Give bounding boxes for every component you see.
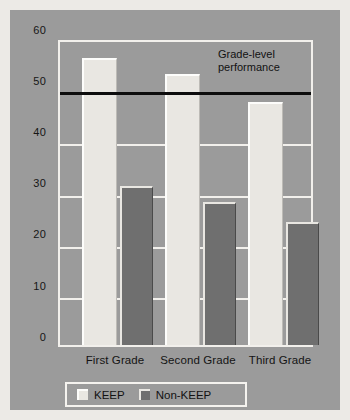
- grade-level-annotation-label: Grade-level performance: [218, 48, 280, 74]
- legend-item-nonkeep[interactable]: Non-KEEP: [139, 389, 212, 401]
- bar-nonkeep-first-grade[interactable]: [120, 186, 153, 345]
- chart-panel: Mean Reading Achievement 60 50 40 30 20 …: [10, 10, 340, 410]
- y-tick-label-30: 30: [2, 177, 46, 189]
- y-tick-label-50: 50: [2, 75, 46, 87]
- y-tick-label-10: 10: [2, 280, 46, 292]
- y-tick-label-60: 60: [2, 24, 46, 36]
- figure: Mean Reading Achievement 60 50 40 30 20 …: [0, 0, 350, 420]
- legend-swatch-nonkeep-icon: [139, 389, 150, 400]
- legend-label-keep: KEEP: [94, 389, 125, 401]
- category-label-second-grade: Second Grade: [160, 354, 235, 366]
- bar-keep-first-grade[interactable]: [82, 58, 117, 345]
- legend-swatch-keep-icon: [77, 389, 88, 400]
- category-label-first-grade: First Grade: [86, 354, 145, 366]
- y-tick-label-0: 0: [2, 331, 46, 343]
- legend-item-keep[interactable]: KEEP: [77, 389, 125, 401]
- legend: KEEP Non-KEEP: [65, 382, 247, 407]
- bar-nonkeep-second-grade[interactable]: [203, 202, 236, 345]
- category-label-third-grade: Third Grade: [249, 354, 311, 366]
- plot-area: [58, 40, 313, 347]
- y-tick-label-20: 20: [2, 228, 46, 240]
- bar-keep-second-grade[interactable]: [165, 74, 200, 345]
- legend-label-nonkeep: Non-KEEP: [156, 389, 212, 401]
- bar-nonkeep-third-grade[interactable]: [286, 222, 319, 345]
- bar-keep-third-grade[interactable]: [248, 102, 283, 345]
- y-tick-label-40: 40: [2, 126, 46, 138]
- grade-level-reference-line: [60, 92, 311, 95]
